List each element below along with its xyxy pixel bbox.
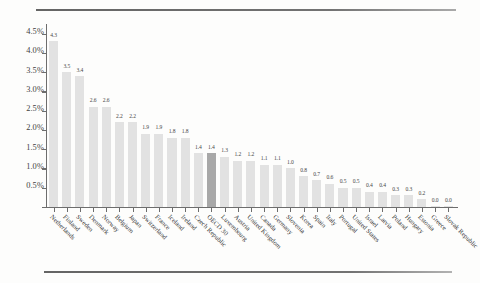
bar-slot: 2.6 xyxy=(86,24,99,207)
bar[interactable]: 0.6 xyxy=(325,184,334,207)
bar-slot: 0.5 xyxy=(336,24,349,207)
x-label-slot: Estonia xyxy=(415,212,428,283)
x-label-slot: Czech Republic xyxy=(192,212,205,283)
bar[interactable]: 0.3 xyxy=(391,195,400,207)
x-label-slot: Canada xyxy=(258,212,271,283)
x-label-slot: Ireland xyxy=(179,212,192,283)
bar-slot: 1.4 xyxy=(205,24,218,207)
bar-slot: 1.2 xyxy=(231,24,244,207)
bar-value-label: 0.5 xyxy=(340,178,347,184)
x-label-slot: United States xyxy=(350,212,363,283)
bar-value-label: 1.4 xyxy=(208,144,215,150)
bar-value-label: 2.6 xyxy=(103,97,110,103)
x-label-slot: Austria xyxy=(231,212,244,283)
bar[interactable]: 3.5 xyxy=(62,72,71,207)
x-label-slot: Luxembourg xyxy=(218,212,231,283)
bar[interactable]: 0.4 xyxy=(365,192,374,207)
x-label-slot: Israel xyxy=(363,212,376,283)
bar-series: 4.33.53.42.62.62.22.21.91.91.81.81.41.41… xyxy=(47,24,455,207)
bar-value-label: 0.0 xyxy=(432,197,439,203)
bar-value-label: 0.3 xyxy=(405,186,412,192)
bar[interactable]: 0.4 xyxy=(378,192,387,207)
bar-value-label: 1.4 xyxy=(195,144,202,150)
y-tick-label: 0.5% xyxy=(26,181,44,190)
bar-slot: 0.3 xyxy=(402,24,415,207)
bar[interactable]: 0.5 xyxy=(352,188,361,207)
bar-slot: 1.3 xyxy=(218,24,231,207)
bar[interactable]: 1.3 xyxy=(220,157,229,207)
bar-slot: 2.2 xyxy=(113,24,126,207)
bar[interactable]: 0.7 xyxy=(312,180,321,207)
bar[interactable]: 0.5 xyxy=(338,188,347,207)
bar[interactable]: 0.3 xyxy=(404,195,413,207)
bar[interactable]: 3.4 xyxy=(75,76,84,207)
bar-value-label: 0.6 xyxy=(327,174,334,180)
bar-highlighted[interactable]: 1.4 xyxy=(207,153,216,207)
bar[interactable]: 0.2 xyxy=(417,199,426,207)
bar-value-label: 0.2 xyxy=(419,190,426,196)
bar-value-label: 3.5 xyxy=(63,63,70,69)
bar[interactable]: 1.0 xyxy=(286,168,295,207)
x-label-slot: Norway xyxy=(100,212,113,283)
y-tick-label: 2.5% xyxy=(26,104,44,113)
bar-slot: 2.6 xyxy=(100,24,113,207)
bar-value-label: 2.6 xyxy=(90,97,97,103)
bar-value-label: 0.7 xyxy=(313,171,320,177)
x-label-slot: Germany xyxy=(271,212,284,283)
bar-slot: 1.9 xyxy=(152,24,165,207)
x-label-slot: Slovak Republic xyxy=(442,212,455,283)
bar-slot: 1.2 xyxy=(244,24,257,207)
bar[interactable]: 1.1 xyxy=(273,165,282,207)
x-label-slot: Denmark xyxy=(86,212,99,283)
x-label-slot: Spain xyxy=(310,212,323,283)
bar[interactable]: 1.2 xyxy=(233,161,242,207)
x-label-slot: Slovenia xyxy=(284,212,297,283)
bar-slot: 1.0 xyxy=(284,24,297,207)
x-label-slot: France xyxy=(152,212,165,283)
bar[interactable]: 1.2 xyxy=(246,161,255,207)
bar-slot: 0.2 xyxy=(415,24,428,207)
bar-value-label: 0.4 xyxy=(379,182,386,188)
bar[interactable]: 1.9 xyxy=(154,134,163,207)
x-label-slot: Hungary xyxy=(402,212,415,283)
bar-value-label: 0.5 xyxy=(353,178,360,184)
top-divider-rule xyxy=(36,9,456,11)
bar[interactable]: 4.3 xyxy=(49,41,58,207)
bar-slot: 0.4 xyxy=(376,24,389,207)
bar-value-label: 1.9 xyxy=(142,124,149,130)
bar-value-label: 1.0 xyxy=(287,159,294,165)
bar-slot: 0.5 xyxy=(350,24,363,207)
bar-slot: 0.0 xyxy=(442,24,455,207)
bar-slot: 4.3 xyxy=(47,24,60,207)
bar-slot: 2.2 xyxy=(126,24,139,207)
bar[interactable]: 1.9 xyxy=(141,134,150,207)
bar-value-label: 1.1 xyxy=(261,155,268,161)
y-tick-label: 3.5% xyxy=(26,66,44,75)
bar[interactable]: 1.8 xyxy=(167,138,176,207)
y-tick-label: 1.0% xyxy=(26,162,44,171)
bar-slot: 1.9 xyxy=(139,24,152,207)
bar[interactable]: 2.2 xyxy=(115,122,124,207)
bar-slot: 1.8 xyxy=(179,24,192,207)
bar[interactable]: 2.6 xyxy=(102,107,111,207)
y-tick-label: 3.0% xyxy=(26,85,44,94)
bar-value-label: 0.0 xyxy=(445,197,452,203)
bar[interactable]: 1.4 xyxy=(194,153,203,207)
x-label-slot: Korea xyxy=(297,212,310,283)
bar-slot: 1.8 xyxy=(165,24,178,207)
bar[interactable]: 0.8 xyxy=(299,176,308,207)
bar[interactable]: 2.6 xyxy=(89,107,98,207)
x-label-slot: Portugal xyxy=(336,212,349,283)
y-tick-label: 2.0% xyxy=(26,123,44,132)
x-label-slot: Iceland xyxy=(165,212,178,283)
bar[interactable]: 1.1 xyxy=(260,165,269,207)
x-label-slot: OECD 30 xyxy=(205,212,218,283)
bar-slot: 1.1 xyxy=(258,24,271,207)
bar-slot: 0.4 xyxy=(363,24,376,207)
bar[interactable]: 1.8 xyxy=(181,138,190,207)
bar-value-label: 1.9 xyxy=(155,124,162,130)
bar-chart: 0.5%1.0%1.5%2.0%2.5%3.0%3.5%4.0%4.5% 4.3… xyxy=(0,16,469,266)
x-label-slot: Netherlands xyxy=(47,212,60,283)
bar[interactable]: 2.2 xyxy=(128,122,137,207)
bar-slot: 3.5 xyxy=(60,24,73,207)
